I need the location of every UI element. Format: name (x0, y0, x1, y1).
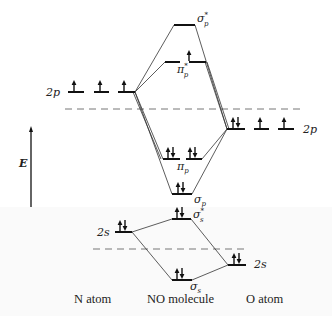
n-2p-label: 2p (45, 86, 60, 99)
svg-text:πp: πp (176, 160, 189, 175)
mo-pi-p-star: π*p (165, 50, 206, 79)
caption-no-molecule: NO molecule (147, 292, 214, 306)
o-2s-label: 2s (253, 258, 267, 271)
energy-axis: E (18, 126, 33, 207)
energy-axis-label: E (18, 157, 28, 170)
mo-diagram: E 2p 2s (0, 0, 332, 316)
o-2p-orbitals: 2p (227, 117, 317, 136)
caption-o-atom: O atom (246, 292, 283, 306)
mo-pi-p: πp (163, 147, 202, 175)
mo-sigma-p-star: σ*p (174, 11, 209, 28)
svg-text:σ*p: σ*p (197, 11, 209, 28)
caption-n-atom: N atom (74, 292, 111, 306)
o-2p-label: 2p (302, 123, 317, 136)
svg-text:π*p: π*p (176, 62, 189, 79)
mo-sigma-p: σp (172, 182, 207, 208)
n-2p-orbitals: 2p (45, 80, 135, 99)
n-2s-label: 2s (96, 226, 110, 239)
svg-text:σp: σp (194, 193, 207, 208)
